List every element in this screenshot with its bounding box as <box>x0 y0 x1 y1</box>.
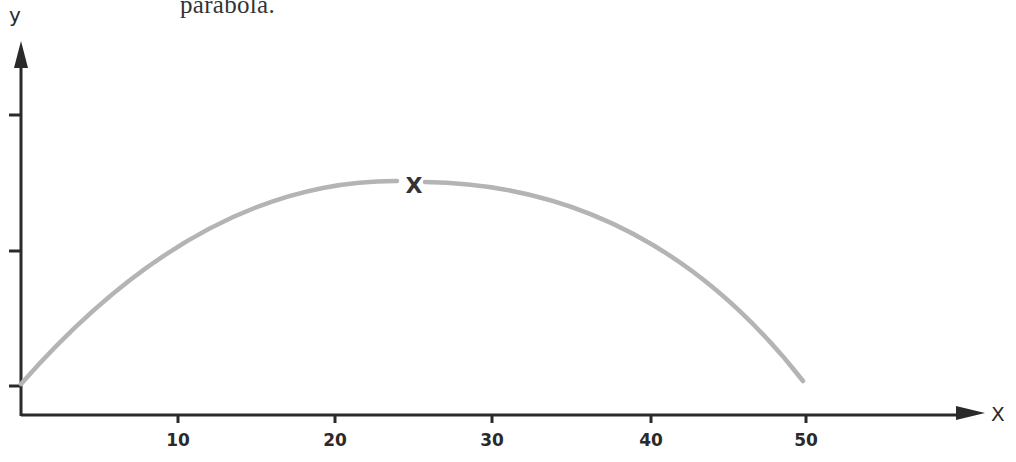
x-tick-label: 10 <box>166 430 190 450</box>
x-tick-label: 30 <box>480 430 504 450</box>
x-tick-label: 20 <box>323 430 347 450</box>
parabola-left-branch <box>21 181 397 384</box>
parabola-plot: y 10 20 30 40 50 X X <box>0 0 1016 462</box>
y-axis: y <box>9 3 28 416</box>
y-axis-arrow-icon <box>14 41 28 68</box>
x-axis: 10 20 30 40 50 X <box>21 402 1005 450</box>
parabola-curve <box>21 181 803 384</box>
y-axis-label: y <box>9 3 21 27</box>
x-axis-label: X <box>991 402 1005 426</box>
vertex-marker: X <box>406 173 423 198</box>
x-tick-label: 50 <box>794 430 818 450</box>
x-axis-arrow-icon <box>956 406 985 420</box>
parabola-right-branch <box>425 182 803 381</box>
x-tick-label: 40 <box>639 430 663 450</box>
